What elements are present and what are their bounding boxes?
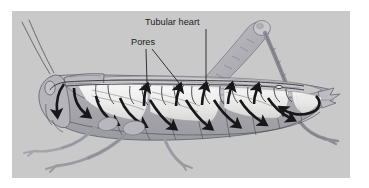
- grasshopper-circulatory-diagram: Tubular heart Pores: [0, 0, 369, 188]
- pore: [143, 84, 150, 87]
- pore: [228, 84, 235, 87]
- pore: [254, 84, 261, 87]
- label-tubular-heart: Tubular heart: [145, 17, 200, 27]
- pore: [176, 84, 183, 87]
- pore: [276, 85, 283, 88]
- pore: [202, 83, 209, 86]
- figure-root: Tubular heart Pores: [0, 0, 369, 188]
- label-pores: Pores: [131, 37, 155, 47]
